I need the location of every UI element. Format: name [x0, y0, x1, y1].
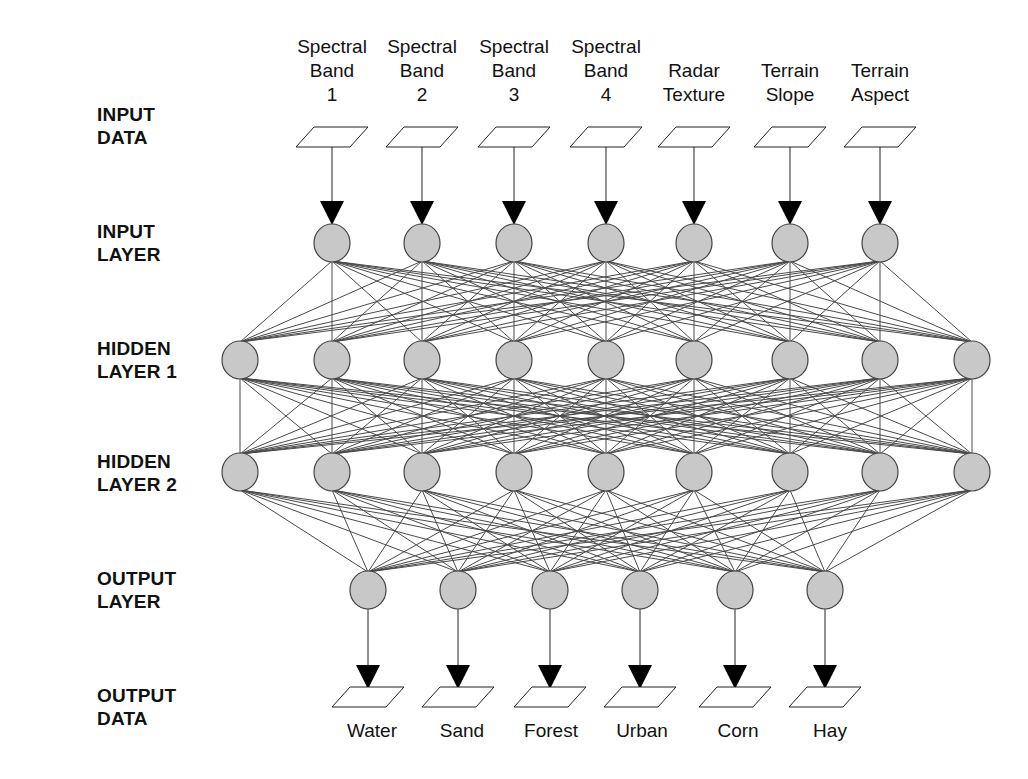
input-label-radar-texture: Radar Texture	[663, 59, 725, 107]
label-input-layer: INPUT LAYER	[97, 220, 161, 266]
output-node	[350, 571, 386, 609]
edge	[368, 490, 972, 572]
output-data-box	[699, 687, 771, 707]
edge	[550, 490, 972, 572]
input-node	[676, 224, 712, 262]
input-data-box	[570, 127, 642, 147]
down-arrow-icon	[778, 201, 802, 225]
hidden1-node	[222, 341, 258, 379]
edge	[240, 261, 332, 342]
down-arrow-icon	[502, 201, 526, 225]
hidden1-node	[314, 341, 350, 379]
output-data-box	[514, 687, 586, 707]
hidden1-node	[954, 341, 990, 379]
down-arrow-icon	[868, 201, 892, 225]
edge	[880, 261, 972, 342]
hidden2-node	[954, 453, 990, 491]
input-node	[862, 224, 898, 262]
hidden2-node	[314, 453, 350, 491]
hidden1-node	[676, 341, 712, 379]
edge	[606, 261, 972, 342]
hidden1-node	[772, 341, 808, 379]
hidden2-node	[772, 453, 808, 491]
hidden2-node	[404, 453, 440, 491]
input-label-terrain-aspect: Terrain Aspect	[851, 59, 909, 107]
output-data-box	[604, 687, 676, 707]
hidden2-node	[862, 453, 898, 491]
input-data-box	[754, 127, 826, 147]
label-hidden-layer-1: HIDDEN LAYER 1	[97, 337, 177, 383]
down-arrow-icon	[446, 665, 470, 689]
hidden1-node	[496, 341, 532, 379]
hidden2-node	[676, 453, 712, 491]
hidden2-node	[496, 453, 532, 491]
input-node	[404, 224, 440, 262]
down-arrow-icon	[594, 201, 618, 225]
output-label-sand: Sand	[440, 719, 484, 743]
hidden1-node	[862, 341, 898, 379]
down-arrow-icon	[813, 665, 837, 689]
hidden2-node	[588, 453, 624, 491]
hidden2-node	[222, 453, 258, 491]
edge	[790, 261, 972, 342]
output-node	[622, 571, 658, 609]
input-label-band-3: Spectral Band 3	[479, 35, 549, 107]
down-arrow-icon	[320, 201, 344, 225]
output-data-box	[332, 687, 404, 707]
output-label-forest: Forest	[524, 719, 578, 743]
input-label-band-1: Spectral Band 1	[297, 35, 367, 107]
down-arrow-icon	[410, 201, 434, 225]
output-label-urban: Urban	[616, 719, 668, 743]
label-hidden-layer-2: HIDDEN LAYER 2	[97, 450, 177, 496]
output-label-water: Water	[347, 719, 397, 743]
edge	[240, 261, 514, 342]
label-input-data: INPUT DATA	[97, 103, 155, 149]
down-arrow-icon	[723, 665, 747, 689]
input-label-band-2: Spectral Band 2	[387, 35, 457, 107]
input-node	[772, 224, 808, 262]
edge	[368, 490, 880, 572]
edge	[368, 490, 422, 572]
edge	[240, 261, 422, 342]
connection-edges	[240, 261, 972, 572]
input-data-box	[844, 127, 916, 147]
output-data-box	[789, 687, 861, 707]
input-node	[496, 224, 532, 262]
input-data-box	[658, 127, 730, 147]
edge	[240, 261, 694, 342]
hidden1-node	[588, 341, 624, 379]
down-arrow-icon	[628, 665, 652, 689]
edge	[735, 490, 972, 572]
output-node	[440, 571, 476, 609]
edge	[240, 261, 880, 342]
label-output-data: OUTPUT DATA	[97, 684, 176, 730]
input-data-box	[386, 127, 458, 147]
input-label-terrain-slope: Terrain Slope	[761, 59, 819, 107]
edge	[825, 490, 972, 572]
down-arrow-icon	[538, 665, 562, 689]
input-data-box	[478, 127, 550, 147]
label-output-layer: OUTPUT LAYER	[97, 567, 176, 613]
input-label-band-4: Spectral Band 4	[571, 35, 641, 107]
down-arrow-icon	[356, 665, 380, 689]
output-node	[717, 571, 753, 609]
output-label-hay: Hay	[813, 719, 847, 743]
output-label-corn: Corn	[717, 719, 758, 743]
input-node	[314, 224, 350, 262]
down-arrow-icon	[682, 201, 706, 225]
hidden1-node	[404, 341, 440, 379]
edge	[240, 261, 790, 342]
input-data-box	[296, 127, 368, 147]
input-node	[588, 224, 624, 262]
output-node	[807, 571, 843, 609]
output-node	[532, 571, 568, 609]
output-data-box	[422, 687, 494, 707]
edge	[240, 261, 606, 342]
